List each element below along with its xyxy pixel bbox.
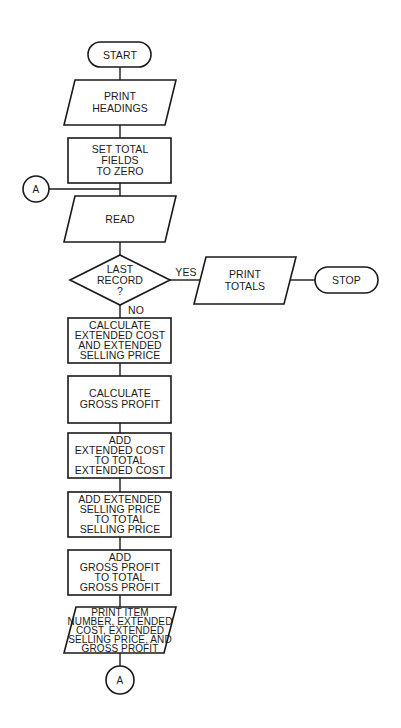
connector-a-entry-label: A [33,184,40,195]
print-headings-io: PRINT HEADINGS [64,80,176,125]
calc-extended-line-4: SELLING PRICE [80,349,161,361]
set-totals-process: SET TOTAL FIELDS TO ZERO [68,138,171,183]
add-gross-line-4: GROSS PROFIT [80,581,161,593]
calc-gross-process: CALCULATE GROSS PROFIT [68,376,171,423]
stop-terminal: STOP [315,267,378,293]
calc-gross-line-2: GROSS PROFIT [80,398,161,410]
set-totals-line-3: TO ZERO [96,165,143,177]
calc-extended-process: CALCULATE EXTENDED COST AND EXTENDED SEL… [68,318,171,363]
stop-label: STOP [332,274,361,286]
flowchart-diagram: START PRINT HEADINGS SET TOTAL FIELDS TO… [0,0,401,728]
add-gross-process: ADD GROSS PROFIT TO TOTAL GROSS PROFIT [68,550,171,595]
add-ext-sell-line-4: SELLING PRICE [80,523,161,535]
print-item-io: PRINT ITEM NUMBER, EXTENDED COST, EXTEND… [64,607,176,654]
print-totals-io: PRINT TOTALS [194,257,296,304]
add-ext-sell-process: ADD EXTENDED SELLING PRICE TO TOTAL SELL… [68,492,171,537]
decision-line-3: ? [117,285,123,297]
decision-no-label: NO [128,304,144,316]
start-terminal: START [88,42,151,67]
print-item-line-5: GROSS PROFIT [82,643,159,654]
read-label: READ [105,213,135,225]
connector-a-exit-label: A [117,675,124,686]
decision-yes-label: YES [175,266,196,278]
read-io: READ [64,196,176,242]
print-totals-line-1: PRINT [229,268,261,280]
add-ext-cost-line-4: EXTENDED COST [75,464,166,476]
print-totals-line-2: TOTALS [225,280,265,292]
start-label: START [103,49,137,61]
print-headings-line-1: PRINT [104,90,136,102]
connector-a-entry: A [23,176,49,202]
add-ext-cost-process: ADD EXTENDED COST TO TOTAL EXTENDED COST [68,433,171,478]
connector-a-exit: A [106,666,134,694]
last-record-decision: LAST RECORD ? YES NO [70,255,197,316]
print-headings-line-2: HEADINGS [92,102,148,114]
